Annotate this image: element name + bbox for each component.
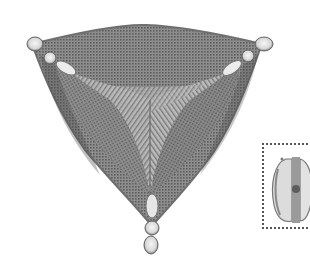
pole-bottom (144, 194, 159, 254)
side-view-drawing (264, 145, 310, 229)
diatom-valve (32, 25, 262, 226)
inset-side-view-sketch (262, 143, 310, 229)
